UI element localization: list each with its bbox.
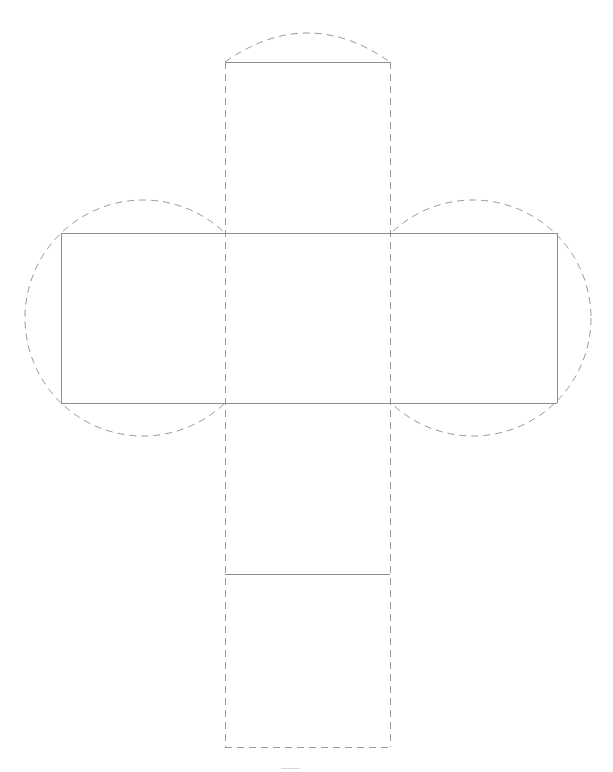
top-square-fill [226, 63, 390, 233]
bottom-tab-fill [226, 575, 390, 747]
left-square-fill [62, 234, 225, 403]
net-diagram-svg [0, 0, 613, 772]
bottom-square-fill [226, 404, 390, 574]
right-square-fill [391, 234, 557, 403]
center-square-fill [226, 234, 390, 403]
net-diagram-canvas [0, 0, 613, 772]
